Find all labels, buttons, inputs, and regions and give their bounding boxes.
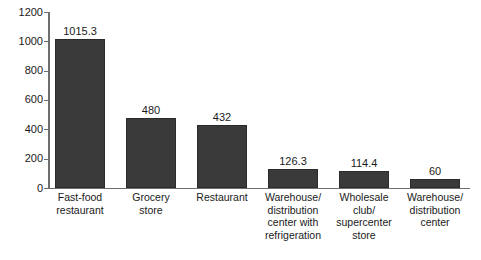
bar-rect[interactable]: [197, 125, 247, 188]
category-label-line: center: [392, 216, 478, 229]
x-axis-line: [48, 188, 470, 189]
bar-rect[interactable]: [126, 118, 176, 188]
category-label-line: Fast-food: [39, 191, 121, 204]
category-label-line: store: [110, 204, 192, 217]
category-label: Fast-food restaurant: [39, 191, 121, 216]
category-label-line: Grocery: [110, 191, 192, 204]
y-axis-tick-label: 0: [0, 183, 43, 194]
y-axis-tick-label: 400: [0, 124, 43, 135]
y-axis-tick-label: 600: [0, 94, 43, 105]
bar-value-label: 1015.3: [37, 25, 123, 37]
bar-slot: 114.4: [339, 12, 389, 188]
bar-slot: 432: [197, 12, 247, 188]
y-axis-tick-label: 1000: [0, 36, 43, 47]
category-label: Grocery store: [110, 191, 192, 216]
bar-slot: 126.3: [268, 12, 318, 188]
plot-area: 1015.3 480 432 126.3 114.4 60: [50, 12, 470, 188]
bar-rect[interactable]: [339, 171, 389, 188]
category-label-line: Warehouse/: [392, 191, 478, 204]
y-axis-tick-label: 200: [0, 153, 43, 164]
bar-value-label: 432: [179, 111, 265, 123]
bar-value-label: 60: [392, 165, 478, 177]
y-axis-tick-label: 800: [0, 65, 43, 76]
bar-slot: 60: [410, 12, 460, 188]
category-label-line: distribution: [392, 204, 478, 217]
bar-rect[interactable]: [410, 179, 460, 188]
bar-slot: 1015.3: [55, 12, 105, 188]
category-label: Warehouse/ distribution center: [392, 191, 478, 229]
x-axis-category-labels: Fast-food restaurant Grocery store Resta…: [50, 191, 470, 260]
category-label-line: store: [321, 229, 407, 242]
bar-rect[interactable]: [268, 169, 318, 188]
bar-rect[interactable]: [55, 39, 105, 188]
y-axis-tick-label: 1200: [0, 7, 43, 18]
bar-slot: 480: [126, 12, 176, 188]
bar-chart: 1200 1000 800 600 400 200 0 1015.3 480 4…: [0, 0, 481, 260]
category-label-line: restaurant: [39, 204, 121, 217]
